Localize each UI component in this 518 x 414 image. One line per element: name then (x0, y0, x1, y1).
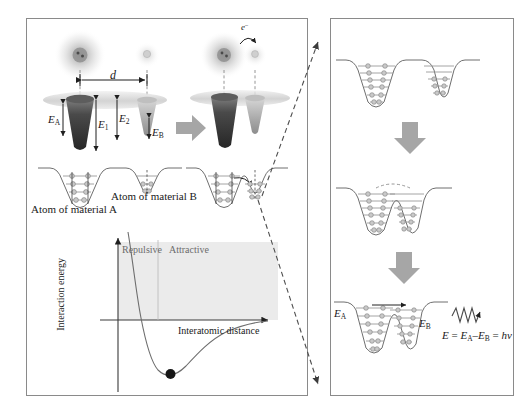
step1-wells (336, 60, 480, 107)
right-panel-graphics (0, 0, 518, 414)
zoom-connector-bottom (258, 200, 318, 384)
step2-wells (336, 184, 452, 235)
step3-wells (334, 302, 480, 353)
step2-barrier-dash (376, 184, 410, 188)
photon-wave-icon (452, 308, 480, 322)
step2-levels-a (358, 192, 395, 233)
step1-well-curve (336, 60, 480, 107)
zoom-connector-top (262, 42, 318, 196)
step2-well-curve (336, 188, 452, 235)
down-block-arrow-icon (394, 122, 426, 154)
label-EA-right: EA (334, 307, 346, 321)
figure-root: d e– EA E1 E2 EB Atom of material B Atom… (0, 0, 518, 414)
label-EB-right: EB (419, 317, 431, 331)
down-block-arrow-icon (388, 252, 420, 284)
emission-equation: E = EA–EB = hν (442, 329, 512, 343)
